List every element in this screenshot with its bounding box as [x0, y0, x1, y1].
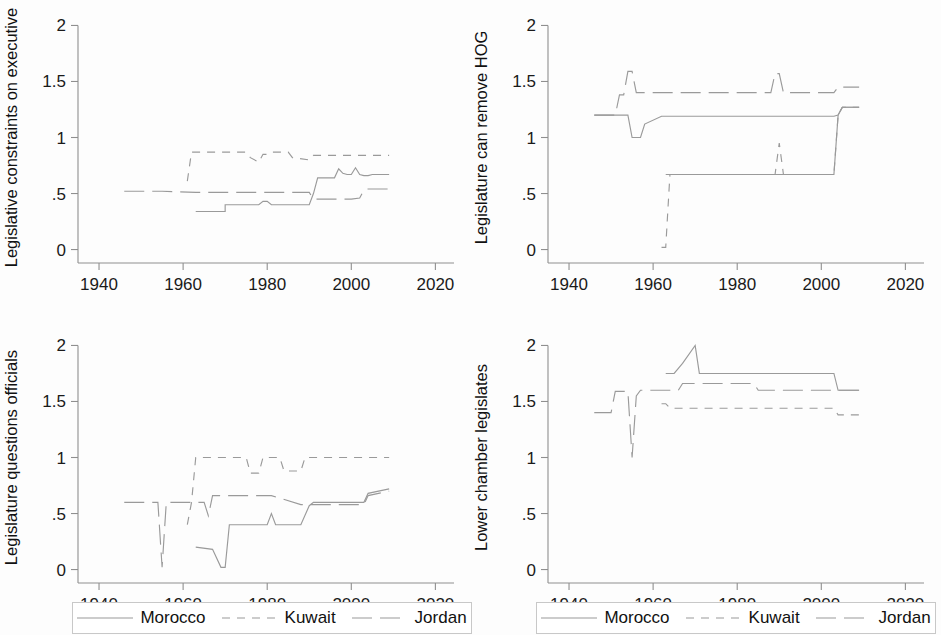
series-line-jordan: [124, 189, 389, 199]
legend-swatch-jordan: [352, 613, 408, 623]
series-line-kuwait: [662, 107, 860, 247]
y-axis-title: Legislature can remove HOG: [472, 31, 490, 245]
series-line-kuwait: [187, 152, 389, 181]
legend-entry-jordan: Jordan: [352, 608, 467, 628]
series-line-morocco: [666, 107, 859, 174]
x-tick-label: 2000: [802, 275, 840, 294]
y-tick-label: 0: [527, 241, 536, 260]
legend-swatch-jordan: [816, 613, 872, 623]
y-tick-label: 2: [527, 16, 536, 35]
y-tick-label: .5: [52, 185, 66, 204]
chart-legislature-can-remove-hog: 0.511.5219401960198020002020Legislature …: [470, 0, 940, 300]
y-tick-label: 2: [527, 336, 536, 355]
series-line-morocco: [196, 489, 389, 567]
chart-legislative-constraints-on-executive: 0.511.5219401960198020002020Legislative …: [0, 0, 470, 300]
y-axis-title: Legislative constraints on executive: [2, 8, 20, 268]
y-tick-label: 0: [527, 561, 536, 580]
legend-entry-morocco: Morocco: [77, 608, 205, 628]
x-tick-label: 1940: [80, 275, 118, 294]
panel-legislative-constraints-on-executive: 0.511.5219401960198020002020Legislative …: [0, 0, 470, 300]
legend-swatch-morocco: [541, 613, 597, 623]
y-tick-label: 1.5: [512, 392, 536, 411]
panel-lower-chamber-legislates: 0.511.5219401960198020002020Lower chambe…: [470, 320, 940, 620]
legend-swatch-kuwait: [222, 613, 278, 623]
chart-legislature-questions-officials: 0.511.5219401960198020002020Legislature …: [0, 320, 470, 620]
x-tick-label: 1960: [634, 275, 672, 294]
legend-label-jordan: Jordan: [415, 608, 467, 628]
y-tick-label: 2: [57, 16, 66, 35]
y-tick-label: 1.5: [42, 392, 66, 411]
x-tick-label: 1980: [718, 275, 756, 294]
legend-label-morocco: Morocco: [604, 608, 669, 628]
series-line-jordan: [594, 384, 859, 458]
x-tick-label: 2020: [416, 275, 454, 294]
y-tick-label: 1.5: [42, 72, 66, 91]
x-tick-label: 2020: [886, 275, 924, 294]
legend-entry-kuwait: Kuwait: [686, 608, 800, 628]
y-tick-label: 1: [527, 129, 536, 148]
series-line-kuwait: [662, 404, 860, 415]
y-tick-label: 1: [57, 129, 66, 148]
y-tick-label: 1.5: [512, 72, 536, 91]
legend-right: Morocco Kuwait Jordan: [536, 602, 936, 634]
panel-legislature-can-remove-hog: 0.511.5219401960198020002020Legislature …: [470, 0, 940, 300]
series-line-kuwait: [187, 458, 389, 525]
y-tick-label: 0: [57, 561, 66, 580]
series-line-jordan-lower: [594, 107, 859, 137]
legend-swatch-kuwait: [686, 613, 742, 623]
y-tick-label: 0: [57, 241, 66, 260]
legend-entry-morocco: Morocco: [541, 608, 669, 628]
series-line-jordan: [594, 71, 859, 115]
series-line-morocco: [666, 345, 859, 390]
legend-left: Morocco Kuwait Jordan: [72, 602, 472, 634]
y-tick-label: .5: [522, 505, 536, 524]
panel-legislature-questions-officials: 0.511.5219401960198020002020Legislature …: [0, 320, 470, 620]
x-tick-label: 1940: [550, 275, 588, 294]
legend-label-kuwait: Kuwait: [285, 608, 336, 628]
y-axis-title: Legislature questions officials: [2, 350, 20, 565]
y-tick-label: 2: [57, 336, 66, 355]
y-tick-label: .5: [522, 185, 536, 204]
legend-entry-jordan: Jordan: [816, 608, 931, 628]
y-tick-label: .5: [52, 505, 66, 524]
legend-label-jordan: Jordan: [879, 608, 931, 628]
legend-label-morocco: Morocco: [140, 608, 205, 628]
legend-swatch-morocco: [77, 613, 133, 623]
x-tick-label: 1960: [164, 275, 202, 294]
x-tick-label: 1980: [248, 275, 286, 294]
chart-lower-chamber-legislates: 0.511.5219401960198020002020Lower chambe…: [470, 320, 940, 620]
figure-multi-panel-line-charts: 0.511.5219401960198020002020Legislative …: [0, 0, 941, 635]
x-tick-label: 2000: [332, 275, 370, 294]
y-axis-title: Lower chamber legislates: [472, 364, 490, 551]
legend-entry-kuwait: Kuwait: [222, 608, 336, 628]
y-tick-label: 1: [527, 449, 536, 468]
y-tick-label: 1: [57, 449, 66, 468]
series-line-morocco: [196, 168, 389, 212]
legend-label-kuwait: Kuwait: [749, 608, 800, 628]
